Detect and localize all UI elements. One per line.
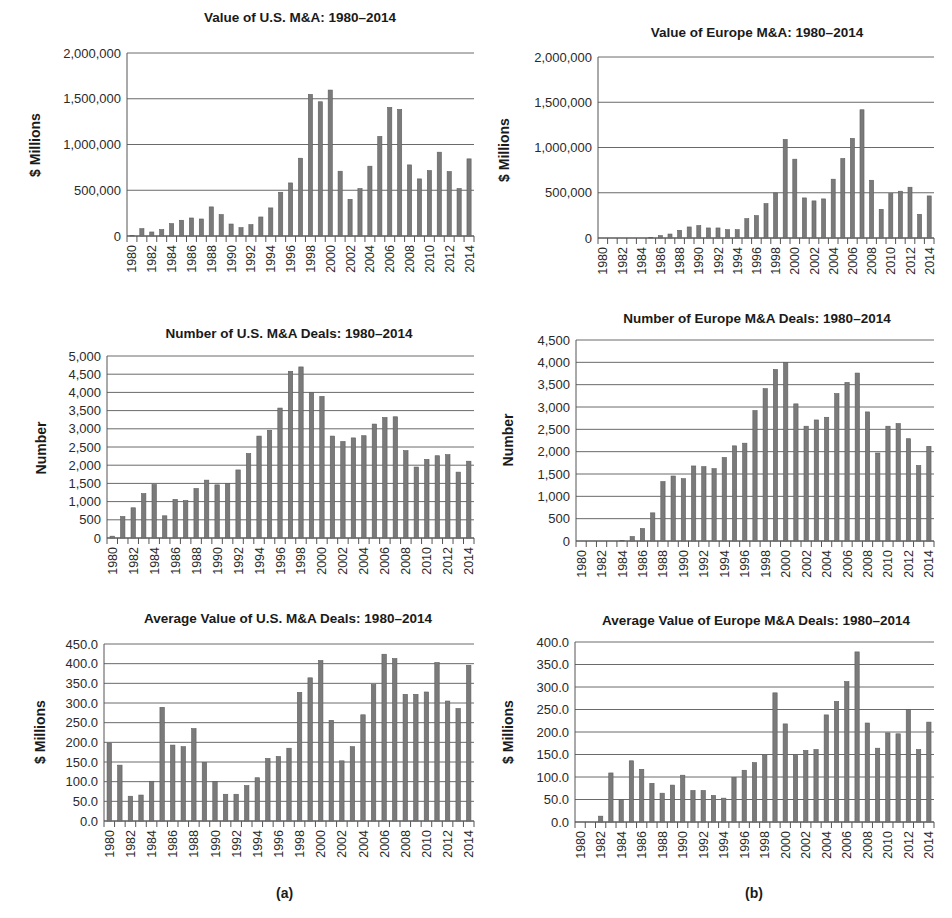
bar-2005 <box>371 685 375 821</box>
bar-1992 <box>716 228 720 238</box>
bar-1998 <box>763 389 767 541</box>
bar-1993 <box>246 454 250 538</box>
x-tick-label: 1984 <box>635 247 649 275</box>
x-tick-label: 1988 <box>205 245 219 273</box>
x-tick-label: 2000 <box>788 247 802 275</box>
bar-1994 <box>269 208 273 236</box>
y-tick-label: 1,000,000 <box>63 137 121 152</box>
x-tick-label: 1984 <box>145 830 159 858</box>
x-tick-label: 2006 <box>840 831 854 859</box>
bar-2011 <box>898 191 902 238</box>
bar-2010 <box>425 459 429 538</box>
bar-1998 <box>763 755 767 822</box>
x-tick-label: 2000 <box>315 547 329 575</box>
x-tick-label: 2012 <box>441 830 455 858</box>
bar-1987 <box>183 501 187 538</box>
x-tick-label: 2014 <box>923 247 937 275</box>
bar-1982 <box>598 816 602 822</box>
bar-2012 <box>446 455 450 538</box>
bar-2008 <box>865 412 869 541</box>
x-tick-label: 2000 <box>779 831 793 859</box>
bar-2001 <box>330 436 334 538</box>
bar-2001 <box>794 404 798 541</box>
y-tick-label: 0 <box>114 229 121 244</box>
x-tick-label: 2004 <box>827 247 841 275</box>
bar-1987 <box>668 234 672 238</box>
bar-chart-svg: Average Value of U.S. M&A Deals: 1980–20… <box>0 600 476 918</box>
bar-2005 <box>835 394 839 541</box>
x-tick-label: 1986 <box>185 245 199 273</box>
y-tick-label: 1,000,000 <box>534 140 592 155</box>
x-tick-label: 1990 <box>211 547 225 575</box>
bar-1990 <box>213 782 217 821</box>
bar-1989 <box>670 785 674 822</box>
x-tick-label: 2000 <box>779 550 793 578</box>
x-tick-label: 2000 <box>314 830 328 858</box>
bar-1992 <box>234 794 238 821</box>
x-tick-label: 1980 <box>103 830 117 858</box>
bar-1995 <box>732 777 736 822</box>
x-tick-label: 1990 <box>209 830 223 858</box>
bar-2009 <box>875 748 879 822</box>
x-tick-label: 1980 <box>575 550 589 578</box>
bar-1997 <box>753 411 757 541</box>
panel-caption-a: (a) <box>276 885 293 901</box>
y-tick-label: 2,000,000 <box>63 46 121 61</box>
bar-1984 <box>619 800 623 823</box>
x-tick-label: 1990 <box>677 550 691 578</box>
bars <box>649 110 931 238</box>
bar-1991 <box>225 483 229 538</box>
x-tick-label: 2010 <box>884 247 898 275</box>
bar-2013 <box>917 466 921 541</box>
bar-2010 <box>427 171 431 236</box>
chart-title: Average Value of Europe M&A Deals: 1980–… <box>602 613 911 628</box>
x-tick-label: 2000 <box>324 245 338 273</box>
chart-europe-value: Value of Europe M&A: 1980–2014$ Millions… <box>476 0 952 290</box>
x-tick-label: 1990 <box>225 245 239 273</box>
bar-1980 <box>110 536 114 538</box>
bar-1988 <box>194 488 198 538</box>
bar-1998 <box>308 94 312 236</box>
bar-2010 <box>889 194 893 238</box>
bar-1999 <box>318 102 322 236</box>
x-tick-label: 2006 <box>846 247 860 275</box>
chart-europe-deals: Number of Europe M&A Deals: 1980–2014Num… <box>476 290 952 600</box>
bar-1986 <box>189 218 193 236</box>
x-tick-label: 2012 <box>902 550 916 578</box>
bar-2000 <box>783 724 787 822</box>
x-tick-label: 2014 <box>922 831 936 859</box>
bar-2014 <box>927 196 931 238</box>
y-tick-label: 1,500 <box>537 467 570 482</box>
bar-1988 <box>660 793 664 822</box>
x-tick-label: 1980 <box>596 247 610 275</box>
y-axis-label: Number <box>33 421 49 474</box>
bar-1997 <box>287 748 291 821</box>
x-tick-label: 1996 <box>738 831 752 859</box>
y-tick-label: 1,000 <box>537 489 570 504</box>
chart-europe-avg: Average Value of Europe M&A Deals: 1980–… <box>476 600 952 918</box>
y-tick-label: 2,000 <box>537 444 570 459</box>
bar-1987 <box>199 219 203 236</box>
bar-2011 <box>435 456 439 538</box>
bar-1989 <box>671 476 675 541</box>
bar-1993 <box>712 469 716 541</box>
bar-2004 <box>824 715 828 822</box>
y-axis-label: $ Millions <box>27 113 43 177</box>
bar-2007 <box>392 659 396 821</box>
x-tick-label: 1996 <box>284 245 298 273</box>
y-axis-label: $ Millions <box>496 118 512 182</box>
bar-chart-svg: Number of U.S. M&A Deals: 1980–2014Numbe… <box>0 290 476 600</box>
y-tick-label: 400.0 <box>65 656 98 671</box>
bar-2005 <box>841 159 845 238</box>
bar-2013 <box>456 709 460 821</box>
bar-1993 <box>259 217 263 236</box>
bar-2000 <box>793 159 797 238</box>
bar-2005 <box>834 701 838 822</box>
bar-2010 <box>424 692 428 821</box>
bar-2006 <box>388 107 392 236</box>
x-tick-label: 1994 <box>717 831 731 859</box>
x-tick-label: 2012 <box>902 831 916 859</box>
x-tick-label: 1998 <box>758 831 772 859</box>
bar-1983 <box>141 494 145 538</box>
chart-title: Value of U.S. M&A: 1980–2014 <box>204 10 397 25</box>
